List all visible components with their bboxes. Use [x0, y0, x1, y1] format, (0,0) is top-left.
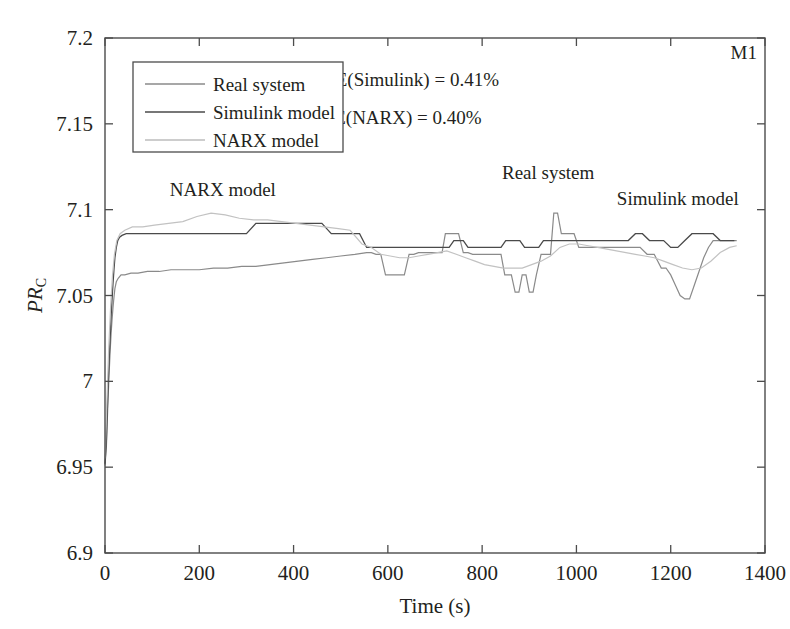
x-tick-label: 400 [278, 561, 310, 585]
annotation-real-system: Real system [502, 162, 595, 183]
y-axis-title: PRC [23, 278, 49, 314]
y-tick-label: 7.1 [67, 198, 93, 222]
y-tick-label: 7.05 [56, 284, 93, 308]
x-tick-label: 1200 [650, 561, 692, 585]
y-tick-label: 7.15 [56, 112, 93, 136]
y-tick-label: 7.2 [67, 26, 93, 50]
y-tick-label: 6.95 [56, 455, 93, 479]
x-axis-title: Time (s) [400, 594, 471, 618]
x-tick-label: 1400 [744, 561, 786, 585]
annotation-m1: M1 [731, 42, 757, 63]
series-line-simulink-model [105, 223, 734, 463]
x-tick-label: 800 [466, 561, 498, 585]
x-tick-label: 0 [100, 561, 111, 585]
legend-layer: Real systemSimulink modelNARX model [133, 62, 343, 152]
series-line-real-system [105, 213, 737, 465]
chart-canvas: 02004006008001000120014006.96.9577.057.1… [0, 0, 790, 629]
x-tick-label: 600 [372, 561, 404, 585]
legend-label-narx-model: NARX model [213, 130, 319, 151]
svg-text:PRC: PRC [23, 278, 49, 314]
chart-figure: 02004006008001000120014006.96.9577.057.1… [0, 0, 790, 629]
annotation-simulink-model: Simulink model [617, 188, 739, 209]
x-tick-label: 200 [184, 561, 216, 585]
legend-label-real-system: Real system [213, 74, 306, 95]
legend-label-simulink-model: Simulink model [213, 102, 335, 123]
annotation-narx-model: NARX model [170, 179, 276, 200]
y-tick-label: 7 [83, 369, 94, 393]
y-tick-label: 6.9 [67, 541, 93, 565]
series-layer [105, 213, 737, 465]
x-tick-label: 1000 [555, 561, 597, 585]
